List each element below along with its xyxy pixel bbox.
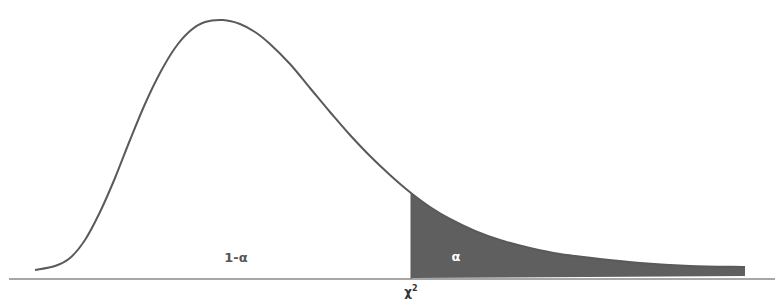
critical-value-base: χ <box>404 285 412 299</box>
rejection-region-label: α <box>452 249 461 264</box>
critical-value-superscript: 2 <box>412 284 418 293</box>
density-curve <box>35 20 745 270</box>
critical-value-label: χ2 <box>404 284 417 299</box>
acceptance-region-label: 1-α <box>224 250 247 265</box>
